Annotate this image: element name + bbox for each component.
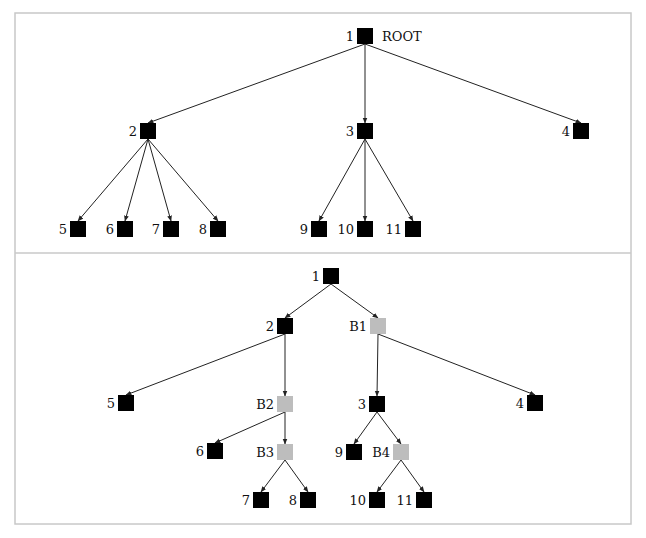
edge-B2-to-6 [215,412,285,443]
black-square-icon [405,221,421,237]
node-label: 10 [349,493,366,508]
edge-B4-to-11 [401,460,424,492]
binarized-tree-edges [126,284,535,492]
edge-B1-to-3 [377,334,378,396]
node-label: 6 [106,222,114,237]
node-11: 11 [396,492,432,508]
node-8: 8 [289,492,316,508]
black-square-icon [357,221,373,237]
edge-3-to-9 [319,139,365,221]
gray-square-icon [393,444,409,460]
node-4: 4 [562,123,589,139]
black-square-icon [70,221,86,237]
gray-square-icon [277,396,293,412]
node-7: 7 [242,492,269,508]
edge-3-to-11 [365,139,413,221]
edge-1-to-4 [365,44,581,123]
black-square-icon [300,492,316,508]
node-10: 10 [337,221,373,237]
node-5: 5 [59,221,86,237]
edge-2-to-6 [125,139,148,221]
node-label: 9 [335,445,343,460]
edge-2-to-5 [78,139,148,221]
node-label: 4 [516,396,524,411]
edge-2-to-8 [148,139,218,221]
node-label: 5 [59,222,67,237]
node-label: 8 [199,222,207,237]
black-square-icon [117,221,133,237]
node-10: 10 [349,492,385,508]
edge-1-to-2 [148,44,365,123]
node-3: 3 [358,396,385,412]
branch-node-B3: B3 [256,444,293,460]
edge-B3-to-8 [285,460,308,492]
nodes-layer: 1ROOT23456789101112B15B2346B39B4781011 [59,28,589,508]
node-label: B3 [256,445,274,460]
black-square-icon [207,443,223,459]
edge-2-to-7 [148,139,171,221]
node-label: B4 [372,445,390,460]
node-label: 4 [562,124,570,139]
black-square-icon [416,492,432,508]
branch-node-B4: B4 [372,444,409,460]
binarized-tree-nodes: 12B15B2346B39B4781011 [107,268,543,508]
node-8: 8 [199,221,226,237]
node-label: 6 [196,444,204,459]
black-square-icon [357,123,373,139]
black-square-icon [346,444,362,460]
tree-diagram: 1ROOT23456789101112B15B2346B39B4781011 [0,0,646,538]
node-label: B2 [256,397,274,412]
black-square-icon [118,395,134,411]
node-label: 1 [346,29,354,44]
node-4: 4 [516,395,543,411]
node-label: 2 [266,319,274,334]
edge-3-to-9 [354,412,377,444]
node-1: 1ROOT [346,28,422,44]
node-7: 7 [152,221,179,237]
black-square-icon [357,28,373,44]
root-annotation: ROOT [382,29,422,44]
node-6: 6 [106,221,133,237]
node-label: 7 [152,222,160,237]
edge-1-to-B1 [331,284,378,318]
black-square-icon [210,221,226,237]
node-label: 9 [300,222,308,237]
node-label: 3 [346,124,354,139]
edge-1-to-2 [285,284,331,318]
node-label: 10 [337,222,354,237]
node-label: 5 [107,396,115,411]
black-square-icon [323,268,339,284]
black-square-icon [573,123,589,139]
node-label: 8 [289,493,297,508]
gray-square-icon [370,318,386,334]
node-label: 11 [396,493,413,508]
node-label: 1 [312,269,320,284]
black-square-icon [369,396,385,412]
black-square-icon [311,221,327,237]
node-label: 2 [129,124,137,139]
edge-B1-to-4 [378,334,535,395]
node-label: 7 [242,493,250,508]
node-9: 9 [300,221,327,237]
black-square-icon [163,221,179,237]
edge-2-to-5 [126,334,285,395]
branch-node-B1: B1 [349,318,386,334]
node-1: 1 [312,268,339,284]
node-3: 3 [346,123,373,139]
node-label: 11 [385,222,402,237]
node-label: B1 [349,319,367,334]
black-square-icon [277,318,293,334]
node-label: 3 [358,397,366,412]
node-2: 2 [129,123,156,139]
node-2: 2 [266,318,293,334]
black-square-icon [253,492,269,508]
node-11: 11 [385,221,421,237]
gray-square-icon [277,444,293,460]
branch-node-B2: B2 [256,396,293,412]
black-square-icon [140,123,156,139]
edge-3-to-B4 [377,412,401,444]
node-6: 6 [196,443,223,459]
black-square-icon [527,395,543,411]
edge-B4-to-10 [377,460,401,492]
node-9: 9 [335,444,362,460]
